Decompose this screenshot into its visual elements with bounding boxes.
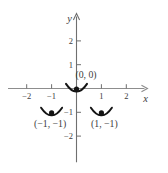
x-tick-label: −1 xyxy=(47,91,56,101)
point-dot xyxy=(99,110,104,115)
y-tick-label: 2 xyxy=(69,36,73,46)
coordinate-plane-figure: xy−2−112−2−112(0, 0)(−1, −1)(1, −1) xyxy=(0,0,168,173)
y-axis-label: y xyxy=(66,13,72,24)
plot-svg: xy−2−112−2−112(0, 0)(−1, −1)(1, −1) xyxy=(0,0,168,173)
y-tick-label: 1 xyxy=(69,60,73,70)
point-label: (1, −1) xyxy=(91,118,118,130)
point-label: (0, 0) xyxy=(75,69,96,81)
point-marker xyxy=(41,108,62,116)
x-axis-label: x xyxy=(142,93,148,104)
point-label: (−1, −1) xyxy=(34,118,66,130)
point-marker xyxy=(91,108,112,116)
y-tick-label: −1 xyxy=(64,107,73,117)
y-tick-label: −2 xyxy=(64,131,73,141)
x-tick-label: 1 xyxy=(99,91,103,101)
x-tick-label: −2 xyxy=(22,91,31,101)
point-dot xyxy=(49,110,54,115)
point-dot xyxy=(74,87,79,92)
x-tick-label: 2 xyxy=(124,91,128,101)
